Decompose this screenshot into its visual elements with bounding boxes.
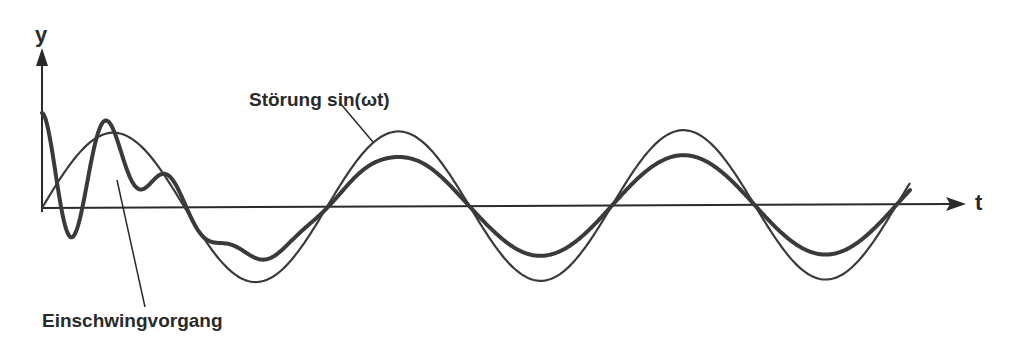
disturbance-label: Störung sin(ωt) <box>249 89 390 111</box>
plot-canvas <box>0 0 1017 346</box>
y-axis-arrow-icon <box>36 48 48 66</box>
t-axis-label: t <box>975 190 982 216</box>
transient-leader-line <box>117 180 145 307</box>
t-axis <box>42 204 950 208</box>
figure: y t Störung sin(ωt) Einschwingvorgang <box>0 0 1017 346</box>
y-axis-label: y <box>35 22 47 48</box>
transient-label: Einschwingvorgang <box>42 310 223 332</box>
